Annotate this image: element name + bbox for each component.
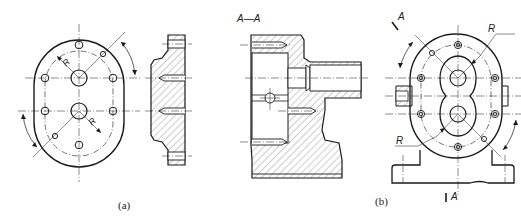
section-a-a bbox=[240, 35, 368, 178]
technical-drawing: R R bbox=[0, 0, 521, 218]
view-a-r-lower: R bbox=[86, 115, 98, 127]
view-a-side-section bbox=[145, 35, 192, 165]
view-a-front bbox=[18, 24, 140, 182]
cut-plane-label-bottom: A bbox=[451, 191, 458, 202]
caption-b: (b) bbox=[375, 195, 388, 207]
caption-a: (a) bbox=[118, 199, 130, 211]
view-b-r-lower: R bbox=[396, 135, 403, 146]
view-b-r-upper: R bbox=[488, 23, 495, 34]
view-a-r-upper: R bbox=[60, 56, 72, 68]
view-b-front bbox=[385, 22, 521, 202]
cut-plane-label-top: A bbox=[398, 11, 405, 22]
section-label: A—A bbox=[237, 13, 260, 24]
